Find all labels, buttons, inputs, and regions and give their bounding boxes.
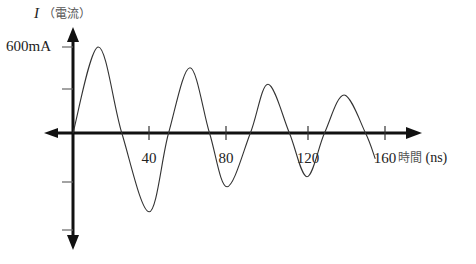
y-axis-label: I （電流） — [34, 4, 91, 22]
x-axis-unit: (ns) — [426, 150, 448, 165]
y-ticks — [62, 47, 73, 230]
x-tick-label-160: 160 — [374, 150, 397, 167]
y-axis-name: （電流） — [43, 7, 91, 21]
x-tick-label-80: 80 — [219, 150, 234, 167]
y-axis-arrow-up — [67, 27, 79, 42]
x-axis-arrow-left — [44, 128, 58, 138]
x-tick-label-40: 40 — [142, 150, 157, 167]
y-tick-label-600: 600mA — [6, 38, 51, 55]
y-axis-symbol: I — [34, 5, 39, 21]
x-tick-label-120: 120 — [297, 150, 320, 167]
chart-canvas — [0, 0, 476, 264]
y-axis-arrow-down — [67, 235, 79, 250]
x-axis-name: 時間 — [398, 151, 422, 165]
current-waveform — [73, 47, 375, 212]
x-axis-label: 時間 (ns) — [398, 148, 447, 166]
x-axis-arrow-right — [406, 127, 422, 139]
